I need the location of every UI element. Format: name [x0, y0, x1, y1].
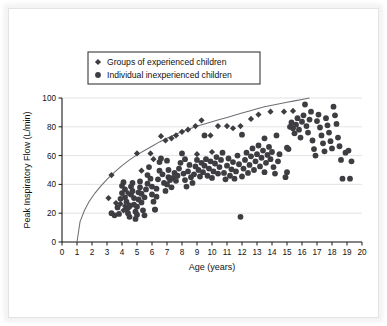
- data-point-circle: [304, 123, 310, 129]
- data-point-circle: [200, 169, 206, 175]
- data-point-diamond: [290, 108, 296, 114]
- data-point-circle: [191, 171, 197, 177]
- data-point-circle: [146, 164, 152, 170]
- x-tick-label: 12: [237, 248, 247, 257]
- data-point-circle: [182, 177, 188, 183]
- x-tick-label: 15: [282, 248, 292, 257]
- data-point-diamond: [237, 123, 243, 129]
- data-point-circle: [130, 188, 136, 194]
- data-point-circle: [130, 180, 136, 186]
- data-point-circle: [349, 158, 355, 164]
- x-tick-label: 5: [135, 248, 140, 257]
- data-point-circle: [296, 127, 302, 133]
- data-point-circle: [245, 170, 251, 176]
- data-point-circle: [137, 179, 143, 185]
- data-point-circle: [316, 112, 322, 118]
- data-point-circle: [332, 112, 338, 118]
- x-tick-label: 13: [252, 248, 262, 257]
- data-point-circle: [310, 138, 316, 144]
- data-point-circle: [325, 122, 331, 128]
- y-tick-label: 0: [51, 238, 56, 247]
- data-point-diamond: [198, 117, 204, 123]
- data-point-circle: [262, 135, 268, 141]
- chart-canvas: 0204060801000123456789101112131415161718…: [0, 0, 387, 326]
- data-point-circle: [250, 146, 256, 152]
- data-point-circle: [314, 118, 320, 124]
- data-point-circle: [215, 171, 221, 177]
- x-tick-label: 3: [105, 248, 110, 257]
- data-point-circle: [184, 184, 190, 190]
- data-point-circle: [140, 207, 146, 213]
- data-point-circle: [151, 199, 157, 205]
- data-point-circle: [221, 170, 227, 176]
- data-point-circle: [263, 160, 269, 166]
- legend-marker-circle: [95, 72, 101, 78]
- data-point-circle: [334, 121, 340, 127]
- x-tick-label: 0: [60, 248, 65, 257]
- x-tick-label: 9: [195, 248, 200, 257]
- data-point-circle: [275, 158, 281, 164]
- data-point-circle: [242, 157, 248, 163]
- data-point-circle: [347, 176, 353, 182]
- data-point-circle: [134, 204, 140, 210]
- data-point-circle: [235, 153, 241, 159]
- data-point-circle: [328, 138, 334, 144]
- data-point-circle: [302, 102, 308, 108]
- data-point-circle: [176, 166, 182, 172]
- data-point-circle: [115, 205, 121, 211]
- data-point-circle: [251, 167, 257, 173]
- data-point-circle: [190, 180, 196, 186]
- data-point-circle: [134, 212, 140, 218]
- data-point-circle: [175, 173, 181, 179]
- data-point-circle: [164, 158, 170, 164]
- data-point-circle: [148, 176, 154, 182]
- data-point-circle: [326, 130, 332, 136]
- data-point-diamond: [138, 168, 144, 174]
- data-point-circle: [337, 143, 343, 149]
- data-point-diamond: [150, 156, 156, 162]
- data-point-circle: [217, 164, 223, 170]
- data-point-circle: [340, 176, 346, 182]
- y-tick-label: 20: [47, 209, 57, 218]
- data-point-circle: [319, 133, 325, 139]
- data-point-circle: [226, 156, 232, 162]
- data-point-circle: [313, 153, 319, 159]
- data-point-circle: [187, 162, 193, 168]
- x-axis-title: Age (years): [189, 262, 236, 272]
- data-point-diamond: [224, 123, 230, 129]
- data-point-circle: [329, 146, 335, 152]
- x-tick-label: 8: [180, 248, 185, 257]
- data-point-circle: [256, 143, 262, 149]
- data-point-circle: [311, 146, 317, 152]
- x-tick-label: 4: [120, 248, 125, 257]
- data-point-circle: [305, 130, 311, 136]
- data-point-circle: [218, 157, 224, 163]
- data-point-diamond: [209, 149, 215, 155]
- data-point-circle: [233, 169, 239, 175]
- data-point-circle: [271, 164, 277, 170]
- data-point-circle: [169, 184, 175, 190]
- figure-frame: 0204060801000123456789101112131415161718…: [0, 0, 387, 326]
- x-tick-label: 19: [342, 248, 352, 257]
- data-point-circle: [241, 166, 247, 172]
- data-point-circle: [212, 161, 218, 167]
- data-point-circle: [308, 109, 314, 115]
- data-point-circle: [266, 144, 272, 150]
- data-point-circle: [152, 207, 158, 213]
- data-point-circle: [182, 156, 188, 162]
- y-axis-title: Peak Inspiratory Flow (L/min): [22, 111, 32, 228]
- x-tick-label: 7: [165, 248, 170, 257]
- data-point-circle: [220, 150, 226, 156]
- data-point-circle: [292, 130, 298, 136]
- data-point-circle: [202, 133, 208, 139]
- data-point-circle: [338, 157, 344, 163]
- data-point-diamond: [230, 125, 236, 131]
- data-point-diamond: [207, 132, 213, 138]
- data-point-diamond: [185, 127, 191, 133]
- data-point-circle: [238, 214, 244, 220]
- data-point-circle: [335, 135, 341, 141]
- data-point-circle: [236, 161, 242, 167]
- data-point-circle: [320, 140, 326, 146]
- data-point-diamond: [281, 109, 287, 115]
- y-tick-label: 80: [47, 123, 57, 132]
